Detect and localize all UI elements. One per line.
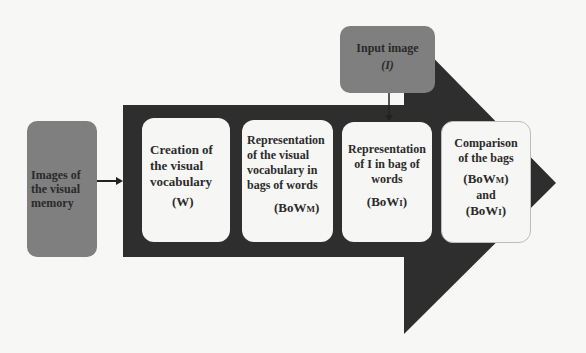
step-represent-input: Representation of I in bag of words (BoW… xyxy=(342,122,432,242)
input-symbol: (I) xyxy=(340,57,435,74)
source-box: Images of the visual memory xyxy=(27,121,97,257)
step3-line-1: Representation xyxy=(342,142,432,157)
step4-symbol1-end: ) xyxy=(504,171,508,186)
step1-line-1: Creation of xyxy=(150,142,230,158)
step2-line-2: of the visual xyxy=(247,148,333,163)
step3-symbol-base: (BoW xyxy=(367,194,400,209)
step4-symbol-2: (BoWI) xyxy=(442,203,530,220)
step3-line-3: words xyxy=(342,172,432,187)
step4-symbol2-end: ) xyxy=(502,203,506,218)
step3-line-2: of I in bag of xyxy=(342,157,432,172)
step4-symbol-1: (BoWM) xyxy=(442,171,530,188)
step3-symbol-end: ) xyxy=(403,194,407,209)
step1-symbol: (W) xyxy=(150,194,230,210)
step2-line-3: vocabulary in xyxy=(247,163,333,178)
input-box: Input image (I) xyxy=(340,26,435,93)
source-connector-arrowhead xyxy=(116,177,123,185)
step2-line-1: Representation xyxy=(247,133,333,148)
input-label: Input image xyxy=(340,40,435,57)
source-line-2: the visual xyxy=(31,182,97,196)
step2-symbol-sub: M xyxy=(307,204,316,214)
step2-line-4: bags of words xyxy=(247,178,333,193)
step4-symbol1-base: (BoW xyxy=(463,171,496,186)
source-line-3: memory xyxy=(31,196,97,210)
step-creation-vocabulary: Creation of the visual vocabulary (W) xyxy=(142,118,230,242)
step4-connector: and xyxy=(442,188,530,203)
step-compare-bags: Comparison of the bags (BoWM) and (BoWI) xyxy=(441,121,531,243)
step-represent-vocabulary: Representation of the visual vocabulary … xyxy=(242,120,333,242)
step1-line-3: vocabulary xyxy=(150,174,230,190)
step2-symbol-end: ) xyxy=(315,200,319,215)
step2-symbol-base: (BoW xyxy=(274,200,307,215)
step1-line-2: the visual xyxy=(150,158,230,174)
step4-line-1: Comparison xyxy=(442,136,530,151)
source-line-1: Images of xyxy=(31,168,97,182)
step2-symbol: (BoWM) xyxy=(247,200,333,217)
step4-symbol2-base: (BoW xyxy=(466,203,499,218)
step4-line-2: of the bags xyxy=(442,151,530,166)
step3-symbol: (BoWI) xyxy=(342,194,432,211)
gap-strip xyxy=(340,93,404,105)
